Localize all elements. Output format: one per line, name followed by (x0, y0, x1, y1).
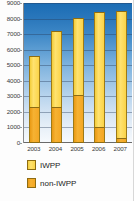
bar-segment-non-iwpp (94, 127, 105, 143)
bars-layer (24, 3, 132, 143)
y-tick-mark (20, 127, 22, 128)
y-tick-label: 3000 (7, 93, 20, 99)
bar-segment-iwpp (73, 18, 84, 95)
bar-segment-non-iwpp (116, 138, 127, 143)
y-tick-mark (20, 34, 22, 35)
y-tick-mark (20, 96, 22, 97)
chart-legend: IWPP non-IWPP (27, 158, 127, 194)
legend-label-iwpp: IWPP (40, 161, 60, 170)
x-axis: 20032004200520062007 (23, 144, 131, 156)
bar-group (73, 3, 84, 143)
bar-group (29, 3, 40, 143)
x-tick-label: 2003 (27, 145, 40, 152)
bar-segment-iwpp (94, 12, 105, 127)
y-tick-label: 4000 (7, 78, 20, 84)
y-axis: 0100020003000400050006000700080009000 (0, 3, 22, 143)
x-tick-label: 2007 (114, 145, 127, 152)
y-tick-label: 1000 (7, 124, 20, 130)
y-tick-label: 2000 (7, 109, 20, 115)
bar-segment-non-iwpp (51, 107, 62, 143)
x-tick-label: 2005 (70, 145, 83, 152)
bar-segment-non-iwpp (29, 107, 40, 143)
y-tick-label: 9000 (7, 0, 20, 6)
y-tick-mark (20, 19, 22, 20)
y-tick-label: 6000 (7, 47, 20, 53)
legend-label-non-iwpp: non-IWPP (40, 179, 76, 188)
y-tick-mark (20, 143, 22, 144)
x-tick-label: 2004 (49, 145, 62, 152)
chart-figure: 0100020003000400050006000700080009000 20… (0, 0, 134, 201)
bar-segment-iwpp (29, 56, 40, 107)
plot-area (23, 3, 132, 143)
y-tick-mark (20, 81, 22, 82)
plot-wrapper: 0100020003000400050006000700080009000 20… (0, 3, 134, 153)
y-tick-label: 8000 (7, 15, 20, 21)
legend-item-iwpp: IWPP (27, 158, 127, 172)
bar-segment-non-iwpp (73, 95, 84, 143)
bar-group (94, 3, 105, 143)
legend-item-non-iwpp: non-IWPP (27, 176, 127, 190)
y-tick-mark (20, 112, 22, 113)
y-tick-label: 5000 (7, 62, 20, 68)
bar-segment-iwpp (116, 11, 127, 139)
y-tick-mark (20, 65, 22, 66)
bar-segment-iwpp (51, 31, 62, 107)
legend-swatch-iwpp (27, 160, 36, 170)
y-tick-mark (20, 3, 22, 4)
bar-group (51, 3, 62, 143)
x-tick-label: 2006 (92, 145, 105, 152)
y-tick-mark (20, 50, 22, 51)
y-tick-label: 7000 (7, 31, 20, 37)
legend-swatch-non-iwpp (27, 178, 36, 188)
bar-group (116, 3, 127, 143)
